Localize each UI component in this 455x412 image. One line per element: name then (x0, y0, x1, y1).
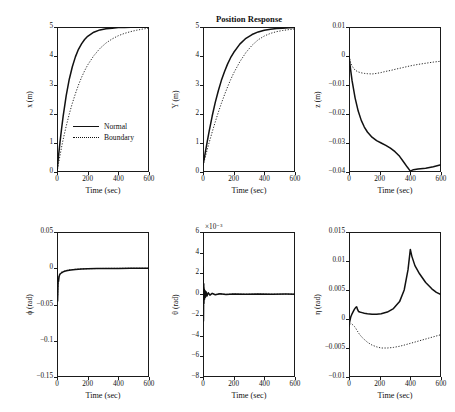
y-tick-label: 0.01 (303, 257, 345, 264)
y-tickmark (200, 143, 203, 144)
y-tick-label: 0 (303, 315, 345, 322)
x-tick-label: 400 (248, 381, 280, 388)
y-tickmark (54, 268, 57, 269)
x-tick-label: 400 (394, 381, 426, 388)
x-tick-label: 0 (333, 381, 365, 388)
x-axis-label: Time (sec) (335, 391, 455, 400)
y-tick-label: 5 (11, 23, 53, 30)
plot-area-phi-angle (57, 232, 149, 377)
y-tickmark (346, 56, 349, 57)
y-tick-label: −0.04 (303, 168, 345, 175)
y-tickmark (54, 27, 57, 28)
y-tickmark (200, 273, 203, 274)
y-tick-label: −0.02 (303, 110, 345, 117)
y-tickmark (346, 143, 349, 144)
y-tickmark (200, 253, 203, 254)
y-tickmark (54, 305, 57, 306)
y-axis-label: η (rad) (313, 274, 322, 334)
y-tickmark (54, 56, 57, 57)
y-tickmark (346, 114, 349, 115)
y-axis-label: ϕ (rad) (25, 274, 34, 334)
x-tick-label: 200 (364, 176, 396, 183)
y-tickmark (200, 232, 203, 233)
x-tick-label: 200 (218, 381, 250, 388)
y-tick-label: −8 (157, 373, 199, 380)
y-tickmark (54, 143, 57, 144)
y-tick-label: 5 (157, 23, 199, 30)
y-tick-label: 0 (11, 264, 53, 271)
plot-area-theta-angle (203, 232, 295, 377)
y-tick-label: −0.01 (303, 81, 345, 88)
y-tickmark (200, 85, 203, 86)
y-tickmark (54, 85, 57, 86)
legend-item-normal: Normal (73, 121, 134, 132)
y-tickmark (346, 319, 349, 320)
y-tickmark (346, 232, 349, 233)
x-tick-label: 600 (279, 176, 311, 183)
y-tick-label: 6 (157, 228, 199, 235)
x-tick-label: 600 (133, 381, 165, 388)
x-tick-label: 0 (187, 381, 219, 388)
x-axis-label: Time (sec) (335, 186, 455, 195)
y-tick-label: −0.1 (11, 337, 53, 344)
y-tick-label: 0.015 (303, 228, 345, 235)
plot-area-eta-angle (349, 232, 441, 377)
y-tickmark (200, 315, 203, 316)
y-tickmark (200, 56, 203, 57)
y-tick-label: 0 (11, 168, 53, 175)
y-tick-label: −0.01 (303, 373, 345, 380)
y-tick-label: −0.15 (11, 373, 53, 380)
x-tick-label: 0 (41, 381, 73, 388)
x-tick-label: 400 (394, 176, 426, 183)
x-axis-label: Time (sec) (189, 186, 309, 195)
y-axis-label: z (m) (313, 69, 322, 129)
legend-item-boundary: Boundary (73, 132, 134, 143)
axis-exponent-label: ×10⁻³ (205, 222, 222, 231)
legend-swatch-dotted (73, 137, 99, 138)
y-tick-label: −6 (157, 352, 199, 359)
y-tickmark (346, 348, 349, 349)
y-tickmark (346, 290, 349, 291)
y-tickmark (54, 232, 57, 233)
plot-area-y-position (203, 27, 295, 172)
legend-label: Normal (104, 122, 127, 131)
y-tick-label: 1 (157, 139, 199, 146)
figure-title: Position Response (178, 14, 320, 24)
y-axis-label: Y (m) (171, 69, 180, 129)
x-axis-label: Time (sec) (43, 391, 163, 400)
y-tickmark (200, 294, 203, 295)
plot-area-x-position (57, 27, 149, 172)
x-tick-label: 600 (279, 381, 311, 388)
y-tickmark (346, 85, 349, 86)
x-tick-label: 200 (364, 381, 396, 388)
y-tickmark (200, 356, 203, 357)
x-tick-label: 0 (41, 176, 73, 183)
x-tick-label: 600 (425, 176, 455, 183)
y-tick-label: 4 (157, 52, 199, 59)
y-tickmark (200, 27, 203, 28)
y-axis-label: θ (rad) (171, 274, 180, 334)
x-axis-label: Time (sec) (43, 186, 163, 195)
x-tick-label: 200 (218, 176, 250, 183)
y-tickmark (346, 261, 349, 262)
y-tickmark (346, 27, 349, 28)
y-tick-label: 0 (157, 168, 199, 175)
x-tick-label: 200 (72, 176, 104, 183)
legend-swatch-solid (73, 126, 99, 127)
x-tick-label: 400 (248, 176, 280, 183)
legend: NormalBoundary (73, 121, 134, 143)
x-tick-label: 400 (102, 176, 134, 183)
x-tick-label: 600 (133, 176, 165, 183)
plot-area-z-position (349, 27, 441, 172)
x-tick-label: 600 (425, 381, 455, 388)
x-tick-label: 0 (333, 176, 365, 183)
y-axis-label: x (m) (25, 69, 34, 129)
y-tick-label: 4 (157, 249, 199, 256)
legend-label: Boundary (104, 133, 134, 142)
y-tick-label: 0.01 (303, 23, 345, 30)
y-tick-label: 4 (11, 52, 53, 59)
y-tickmark (200, 114, 203, 115)
y-tickmark (54, 341, 57, 342)
y-tick-label: 0 (303, 52, 345, 59)
y-tick-label: 0.05 (11, 228, 53, 235)
